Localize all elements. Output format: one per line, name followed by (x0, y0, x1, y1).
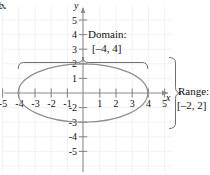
figure-container: b. (0, 0, 210, 175)
range-value: [–2, 2] (177, 100, 206, 111)
y-axis-label: y (74, 0, 78, 11)
x-tick-label: -5 (0, 98, 7, 109)
x-tick-label: -2 (47, 98, 55, 109)
x-tick-label: -3 (31, 98, 39, 109)
y-tick-label: 4 (72, 29, 77, 40)
x-axis-label: x (166, 92, 170, 103)
y-tick-label: 1 (72, 73, 77, 84)
y-tick-label: 3 (72, 44, 77, 55)
range-label: Range: (178, 86, 209, 97)
x-tick-label: 2 (114, 98, 119, 109)
y-tick-label: -2 (69, 102, 77, 113)
x-tick-label: 3 (130, 98, 135, 109)
y-tick-label: 5 (72, 15, 77, 26)
domain-label: Domain: (88, 29, 127, 40)
y-tick-label: -4 (69, 131, 77, 142)
x-tick-label: 1 (97, 98, 102, 109)
y-tick-labels: 5 4 3 2 1 -2 -3 -4 -5 (69, 15, 77, 157)
axis-lines (4, 8, 168, 172)
grid-lines (2, 6, 172, 172)
domain-value: [–4, 4] (92, 43, 121, 54)
y-axis-arrow (81, 7, 86, 13)
y-tick-label: -5 (69, 146, 77, 157)
